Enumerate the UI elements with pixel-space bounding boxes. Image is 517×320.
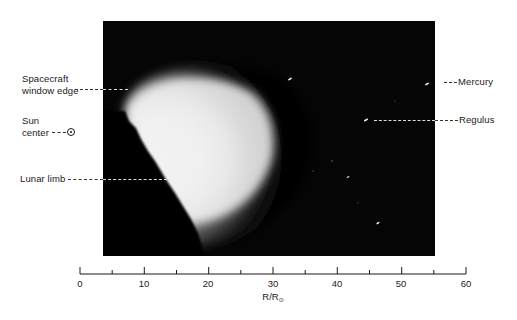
figure: Spacecraft window edge Sun center Lunar … <box>0 0 517 320</box>
axis-title: R/R⊙ <box>262 291 283 303</box>
axis-tick-20: 20 <box>203 278 214 289</box>
axis-tick-30: 30 <box>268 278 279 289</box>
axis-tick-40: 40 <box>332 278 343 289</box>
axis-tick-60: 60 <box>461 278 472 289</box>
axis-tick-50: 50 <box>396 278 407 289</box>
axis-tick-10: 10 <box>139 278 150 289</box>
sun-subscript-icon: ⊙ <box>279 297 284 303</box>
axis-tick-0: 0 <box>77 278 82 289</box>
distance-axis <box>0 0 517 320</box>
